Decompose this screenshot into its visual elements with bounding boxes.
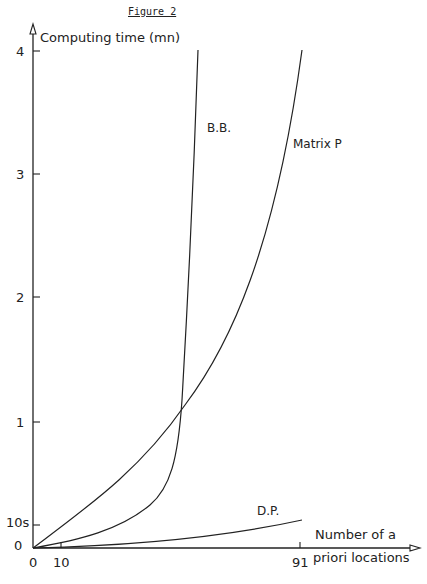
chart: 4 3 2 1 10s 0 0 10 91 Computing time (mn… bbox=[0, 0, 427, 584]
series-dp-line bbox=[33, 520, 302, 548]
svg-text:0: 0 bbox=[14, 538, 22, 553]
series-label-matrix-p: Matrix P bbox=[293, 137, 342, 151]
svg-text:4: 4 bbox=[16, 44, 24, 59]
series-label-bb: B.B. bbox=[207, 121, 231, 135]
y-axis-arrow-icon bbox=[30, 24, 36, 34]
x-axis-label-line2: priori locations bbox=[313, 550, 410, 565]
y-tick-labels: 4 3 2 1 10s 0 bbox=[6, 44, 30, 553]
x-tick-labels: 0 10 91 bbox=[29, 555, 309, 570]
svg-text:1: 1 bbox=[16, 415, 24, 430]
series-matrix-p-line bbox=[33, 50, 302, 548]
svg-text:2: 2 bbox=[16, 290, 24, 305]
series-bb-line bbox=[33, 50, 198, 548]
svg-text:3: 3 bbox=[16, 167, 24, 182]
series-label-dp: D.P. bbox=[257, 504, 279, 518]
x-axis-label-line1: Number of a bbox=[315, 527, 396, 542]
svg-text:10s: 10s bbox=[6, 515, 30, 530]
svg-text:91: 91 bbox=[292, 555, 309, 570]
svg-text:0: 0 bbox=[29, 555, 37, 570]
svg-text:10: 10 bbox=[53, 555, 70, 570]
y-axis-label: Computing time (mn) bbox=[40, 30, 180, 45]
x-axis-arrow-icon bbox=[410, 545, 420, 551]
